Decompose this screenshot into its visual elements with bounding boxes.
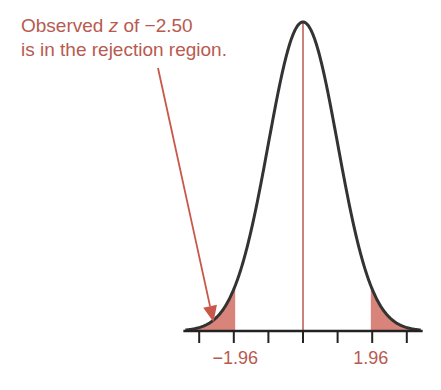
annotation-arrow: [158, 68, 210, 306]
tick-label: −1.96: [212, 348, 258, 369]
annotation-text: Observed z of −2.50 is in the rejection …: [21, 14, 227, 62]
annotation-line-1: Observed z of −2.50: [21, 14, 227, 38]
x-axis-ticks: [199, 331, 407, 343]
annotation-line-2: is in the rejection region.: [21, 38, 227, 62]
tick-label: 1.96: [353, 348, 388, 369]
